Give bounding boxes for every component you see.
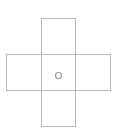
panel-top	[42, 19, 76, 55]
cross-diagram	[0, 0, 121, 132]
panel-bottom	[42, 91, 76, 127]
panel-right	[76, 55, 111, 91]
panel-left	[7, 55, 42, 91]
center-circle-marker	[56, 73, 62, 79]
